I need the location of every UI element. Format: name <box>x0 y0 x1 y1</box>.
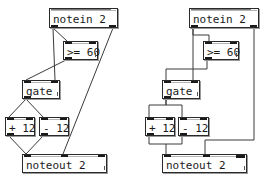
outlet-velocity[interactable] <box>250 25 257 27</box>
gate-object[interactable]: gate <box>22 80 60 99</box>
inlet-right[interactable] <box>200 118 207 120</box>
resize-tick <box>57 92 58 96</box>
compare-object[interactable]: >= 60 <box>63 41 98 60</box>
inlet-left[interactable] <box>24 81 31 83</box>
outlet[interactable] <box>65 57 72 59</box>
resize-tick <box>236 53 237 57</box>
inlet-left[interactable] <box>65 42 72 44</box>
inlet-velocity[interactable] <box>61 155 68 157</box>
inlet-pitch[interactable] <box>164 155 171 157</box>
outlet[interactable] <box>147 133 154 135</box>
inlet-left[interactable] <box>164 81 171 83</box>
inlet-channel[interactable] <box>236 155 245 158</box>
inlet-left[interactable] <box>41 118 48 120</box>
minus-object[interactable]: - 12 <box>178 117 209 136</box>
outlet-pitch[interactable] <box>191 25 198 27</box>
resize-tick <box>197 92 198 96</box>
outlet[interactable] <box>41 133 48 135</box>
plus-object[interactable]: + 12 <box>5 117 35 136</box>
resize-tick <box>95 53 96 57</box>
inlet-right[interactable] <box>26 118 33 120</box>
object-label: noteout 2 <box>166 159 226 172</box>
inlet-right[interactable] <box>230 42 237 44</box>
object-label: notein 2 <box>193 13 246 26</box>
object-label: noteout 2 <box>26 159 86 172</box>
inlet-left[interactable] <box>180 118 187 120</box>
outlet[interactable] <box>180 133 187 135</box>
inlet[interactable] <box>51 9 111 10</box>
outlet-velocity[interactable] <box>109 25 116 27</box>
inlet-right[interactable] <box>191 81 198 83</box>
notein-object[interactable]: notein 2 <box>189 8 259 28</box>
outlet[interactable] <box>205 57 212 59</box>
resize-tick <box>244 166 245 170</box>
inlet-right[interactable] <box>51 81 58 83</box>
inlet-right[interactable] <box>166 118 173 120</box>
noteout-object[interactable]: noteout 2 <box>22 154 107 173</box>
inlet-pitch[interactable] <box>24 155 31 157</box>
inlet[interactable] <box>191 9 251 10</box>
outlet[interactable] <box>164 96 171 98</box>
plus-object[interactable]: + 12 <box>145 117 175 136</box>
gate-object[interactable]: gate <box>162 80 200 99</box>
resize-tick <box>104 166 105 170</box>
compare-object[interactable]: >= 60 <box>203 41 239 60</box>
outlet[interactable] <box>7 133 14 135</box>
inlet-left[interactable] <box>7 118 14 120</box>
object-label: notein 2 <box>53 13 106 26</box>
inlet-velocity[interactable] <box>203 155 210 157</box>
noteout-object[interactable]: noteout 2 <box>162 154 247 173</box>
notein-object[interactable]: notein 2 <box>49 8 118 28</box>
minus-object[interactable]: - 12 <box>39 117 69 136</box>
inlet-channel[interactable] <box>98 155 105 157</box>
inlet-left[interactable] <box>205 42 212 44</box>
inlet-right[interactable] <box>89 42 96 44</box>
inlet-right[interactable] <box>60 118 67 120</box>
outlet[interactable] <box>24 96 31 98</box>
outlet-pitch[interactable] <box>51 25 58 27</box>
inlet-left[interactable] <box>147 118 154 120</box>
